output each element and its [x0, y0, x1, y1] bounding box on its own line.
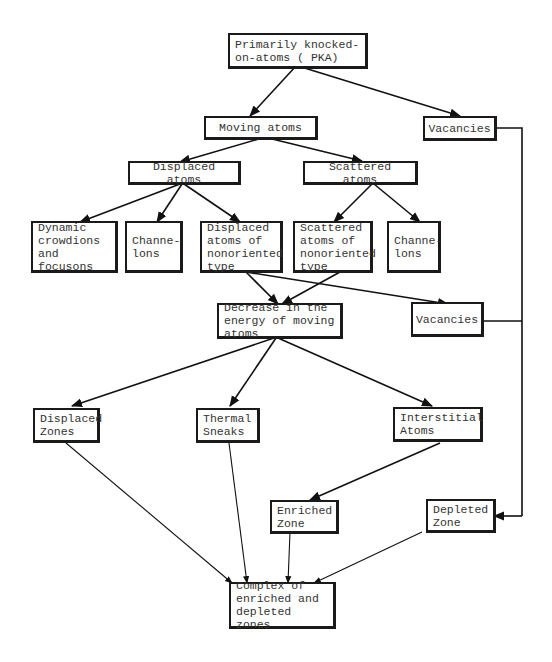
node-dynamic-crowdions: Dynamic crowdions and focusons [31, 221, 118, 273]
node-depleted-zone: Depleted Zone [426, 499, 496, 533]
node-channelons-right: Channe- lons [387, 221, 441, 273]
node-decrease-energy: Decrease in the energy of moving atoms [217, 303, 343, 339]
node-interstitial-atoms: Interstitial Atoms [393, 407, 483, 442]
node-scattered-nonoriented: Scattered atoms of nonoriented type [293, 221, 373, 273]
node-displaced-zones: Displaced Zones [33, 408, 100, 443]
flowchart-canvas: Primarily knocked- on-atoms ( PKA) Movin… [0, 0, 552, 662]
node-enriched-zone: Enriched Zone [270, 500, 339, 534]
node-scattered-atoms: Scattered atoms [303, 161, 418, 185]
node-vacancies-mid: Vacancies [411, 302, 484, 337]
node-moving-atoms: Moving atoms [204, 116, 318, 140]
node-channelons-left: Channe- lons [125, 221, 183, 273]
node-displaced-nonoriented: Displaced atoms of nonoriented type [200, 221, 283, 273]
node-complex: Complex of enriched and depleted zones [229, 582, 336, 629]
node-displaced-atoms: Displaced atoms [128, 161, 241, 185]
node-vacancies-top: Vacancies [423, 116, 497, 141]
node-pka: Primarily knocked- on-atoms ( PKA) [228, 33, 368, 69]
node-thermal-sneaks: Thermal Sneaks [196, 408, 260, 443]
